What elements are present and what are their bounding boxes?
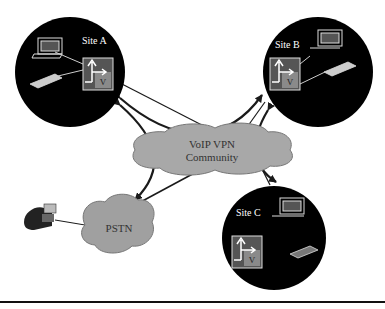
site-a-label: Site A	[82, 35, 108, 46]
network-diagram: VoIP VPN Community PSTN Site A V Site B	[0, 0, 385, 309]
vpn-cloud-label-2: Community	[186, 151, 239, 163]
desk-phone-icon	[24, 204, 56, 230]
link-pstn-phone	[55, 220, 85, 225]
router-label: V	[249, 255, 256, 265]
site-c-label: Site C	[236, 207, 261, 218]
pstn-label: PSTN	[106, 222, 133, 234]
site-b: Site B V	[263, 17, 373, 127]
pstn-cloud: PSTN	[82, 194, 154, 253]
site-c: Site C V	[222, 186, 326, 290]
router-icon: V	[232, 236, 262, 268]
vpn-cloud-label-1: VoIP VPN	[189, 138, 235, 150]
router-label: V	[287, 77, 294, 87]
router-icon: V	[270, 58, 300, 90]
site-b-label: Site B	[275, 39, 300, 50]
router-icon: V	[83, 58, 113, 90]
router-label: V	[100, 77, 107, 87]
site-a: Site A V	[15, 17, 125, 127]
vpn-cloud: VoIP VPN Community	[133, 123, 292, 175]
